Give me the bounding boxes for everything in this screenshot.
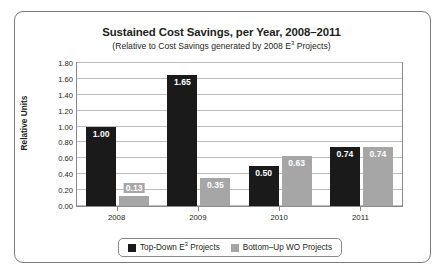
y-axis-tick-label: 0.60 <box>40 154 73 163</box>
bar-value-label: 0.74 <box>337 149 354 159</box>
y-axis-tick-label: 1.00 <box>40 122 73 131</box>
bar-value-label: 0.13 <box>124 183 145 193</box>
bars-layer: 1.000.131.650.350.500.630.740.74 <box>77 63 402 206</box>
x-axis-tickmark <box>198 207 199 211</box>
x-axis-tick-label: 2011 <box>352 213 369 222</box>
y-axis-tick-label: 0.40 <box>40 170 73 179</box>
x-axis-tickmark <box>360 207 361 211</box>
bar-group: 1.650.35 <box>158 63 239 206</box>
bar: 1.00 <box>86 127 116 206</box>
bar-value-label: 0.63 <box>288 158 305 168</box>
legend-label-series-a-suffix: Projects <box>188 243 220 252</box>
chart-legend: Top-Down E3 Projects Bottom–Up WO Projec… <box>118 238 342 257</box>
legend-label-series-b: Bottom–Up WO Projects <box>243 243 332 252</box>
legend-item-top-down[interactable]: Top-Down E3 Projects <box>128 243 220 252</box>
bar-value-label: 1.65 <box>174 77 191 87</box>
legend-label-series-a: Top-Down E3 Projects <box>140 243 220 252</box>
chart-title: Sustained Cost Savings, per Year, 2008–2… <box>0 26 443 38</box>
y-axis-tick-labels: 0.000.200.400.600.801.001.201.401.601.80 <box>40 62 73 207</box>
x-axis-tickmark <box>117 207 118 211</box>
y-axis-tick-label: 1.60 <box>40 74 73 83</box>
y-axis-tick-label: 0.80 <box>40 138 73 147</box>
x-axis-tick-label: 2008 <box>108 213 125 222</box>
bar: 0.13 <box>119 196 149 206</box>
x-axis-tick-labels: 2008200920102011 <box>76 207 403 227</box>
chart-subtitle-suffix: Projects) <box>294 41 330 51</box>
bar: 0.63 <box>282 156 312 206</box>
chart-subtitle: (Relative to Cost Savings generated by 2… <box>0 41 443 51</box>
legend-swatch-icon-series-a <box>128 244 136 252</box>
bar-group: 0.500.63 <box>240 63 321 206</box>
bar-value-label: 1.00 <box>93 129 110 139</box>
bar: 0.74 <box>330 147 360 206</box>
y-axis-tick-label: 0.20 <box>40 186 73 195</box>
y-axis-tick-label: 1.20 <box>40 106 73 115</box>
x-axis-tick-label: 2009 <box>189 213 206 222</box>
bar-value-label: 0.50 <box>255 168 272 178</box>
y-axis-tick-label: 0.00 <box>40 202 73 211</box>
x-axis-tickmark <box>279 207 280 211</box>
legend-label-series-a-prefix: Top-Down E <box>140 243 185 252</box>
bar: 0.50 <box>249 166 279 206</box>
legend-swatch-icon-series-b <box>231 244 239 252</box>
y-axis-title: Relative Units <box>19 68 29 178</box>
bar: 0.35 <box>200 178 230 206</box>
chart-figure: Sustained Cost Savings, per Year, 2008–2… <box>0 0 443 277</box>
chart-subtitle-prefix: (Relative to Cost Savings generated by 2… <box>112 41 291 51</box>
bar: 0.74 <box>363 147 393 206</box>
y-axis-tick-label: 1.80 <box>40 59 73 68</box>
legend-item-bottom-up[interactable]: Bottom–Up WO Projects <box>231 243 332 252</box>
bar-value-label: 0.35 <box>207 180 224 190</box>
bar-group: 1.000.13 <box>77 63 158 206</box>
plot-area: 1.000.131.650.350.500.630.740.74 <box>76 62 403 207</box>
y-axis-tick-label: 1.40 <box>40 90 73 99</box>
bar: 1.65 <box>167 75 197 206</box>
bar-group: 0.740.74 <box>321 63 402 206</box>
bar-value-label: 0.74 <box>370 149 387 159</box>
x-axis-tick-label: 2010 <box>270 213 287 222</box>
